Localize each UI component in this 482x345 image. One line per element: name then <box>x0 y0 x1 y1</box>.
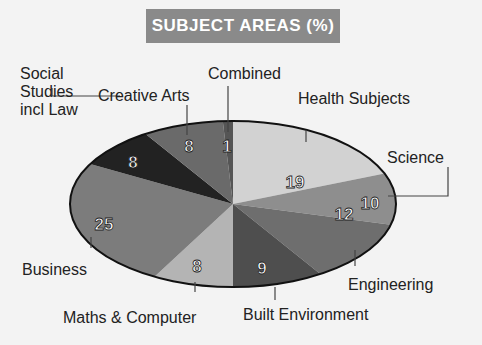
value-label-built: 9 <box>257 259 266 278</box>
value-label-social: 8 <box>128 153 137 172</box>
label-science: Science <box>387 149 444 167</box>
label-combined: Combined <box>208 65 281 83</box>
label-health-subjects: Health Subjects <box>298 90 410 108</box>
label-social-line1: Social <box>20 65 78 83</box>
label-business: Business <box>22 261 87 279</box>
value-label-maths: 8 <box>192 257 201 276</box>
label-creative-arts: Creative Arts <box>98 87 190 105</box>
value-label-engineering: 12 <box>335 205 354 224</box>
value-label-science: 10 <box>361 194 380 213</box>
value-label-health: 19 <box>286 173 305 192</box>
label-engineering: Engineering <box>348 276 433 294</box>
label-maths-computer: Maths & Computer <box>63 309 196 327</box>
value-label-combined: 1 <box>222 137 231 156</box>
label-built-environment: Built Environment <box>243 306 368 324</box>
label-social-studies: Social Studies incl Law <box>20 65 78 119</box>
label-social-line3: incl Law <box>20 101 78 119</box>
value-label-creative: 8 <box>184 137 193 156</box>
label-social-line2: Studies <box>20 83 78 101</box>
value-label-business: 25 <box>95 215 114 234</box>
